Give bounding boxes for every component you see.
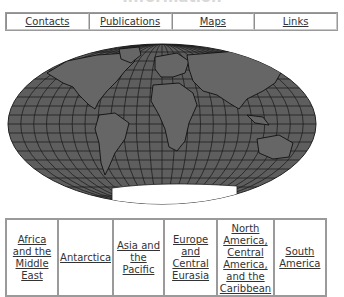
nav-bar: Contacts Publications Maps Links [5,12,338,31]
region-link-africa-middle-east[interactable]: Africa and the Middle East [13,234,51,281]
region-link-antarctica[interactable]: Antarctica [60,252,111,263]
nav-link-links[interactable]: Links [283,16,309,27]
nav-link-publications[interactable]: Publications [100,16,160,27]
nav-link-contacts[interactable]: Contacts [25,16,69,27]
region-link-asia-pacific[interactable]: Asia and the Pacific [117,240,160,275]
region-link-south-america[interactable]: South America [279,246,320,269]
region-link-north-central-america[interactable]: North America, Central America, and the … [220,223,271,294]
world-map-image [7,43,317,205]
world-map[interactable] [7,43,317,205]
regions-table: Africa and the Middle East Antarctica As… [5,218,327,297]
region-link-europe-central-eurasia[interactable]: Europe and Central Eurasia [172,234,209,281]
page-title: Information [0,0,344,6]
nav-link-maps[interactable]: Maps [200,16,226,27]
